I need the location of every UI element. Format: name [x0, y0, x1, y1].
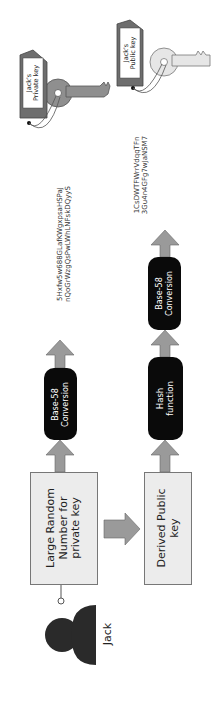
private-base58-label: Base-58 Conversion: [44, 369, 77, 441]
connector-line: [58, 585, 64, 604]
public-key-tag-label: Jack's Public key: [120, 28, 140, 78]
public-base58-label: Base-58 Conversion: [148, 257, 181, 330]
hash-function-label: Hash function: [148, 357, 183, 440]
private-base58-line2: Conversion: [60, 382, 69, 427]
arrow-up-icon: [46, 440, 74, 472]
public-key-icon: [150, 48, 210, 76]
arrow-up-icon: [151, 330, 179, 357]
public-tag-line2: Public key: [130, 37, 137, 70]
hash-line2: function: [166, 381, 176, 416]
public-base58-line1: Base-58: [155, 277, 164, 310]
arrow-up-icon: [151, 440, 179, 472]
arrow-right-icon: [104, 513, 140, 545]
private-base58-line1: Base-58: [51, 388, 60, 421]
public-key-line2: 3Gu4n4GFg7wJaNSM7: [141, 136, 149, 214]
private-key-line2: nQoGrWzgQsPwLWhLNFskDQyyS: [64, 186, 72, 302]
private-key-tag-label: Jack's Private key: [23, 58, 43, 108]
private-key-line1: 5Hxfw5w688GLafKWgxpsaHSPaJ: [56, 187, 64, 301]
private-tag-line2: Private key: [33, 65, 40, 101]
private-key-string: 5Hxfw5w688GLafKWgxpsaHSPaJ nQoGrWzgQsPwL…: [52, 174, 76, 314]
arrow-up-icon: [46, 340, 74, 368]
arrow-up-icon: [151, 230, 179, 257]
public-key-string: 1CsDWTFWrrVdqqTFn 3Gu4n4GFg7wJaNSM7: [129, 125, 153, 225]
public-key-line1: 1CsDWTFWrrVdqqTFn: [133, 137, 141, 214]
person-icon: [45, 605, 96, 665]
private-key-icon: [44, 79, 110, 107]
private-source-label: Large Random Number for private key: [30, 472, 98, 585]
public-source-label: Derived Public key: [145, 472, 193, 585]
public-base58-line2: Conversion: [165, 271, 174, 316]
actor-label: Jack: [99, 614, 117, 654]
